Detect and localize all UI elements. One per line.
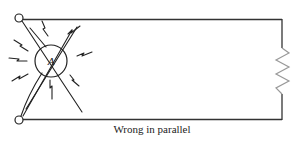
meter-leads <box>21 21 82 116</box>
resistor-icon <box>276 48 289 94</box>
figure-caption: Wrong in parallel <box>0 123 296 135</box>
circuit-wires <box>23 19 282 120</box>
